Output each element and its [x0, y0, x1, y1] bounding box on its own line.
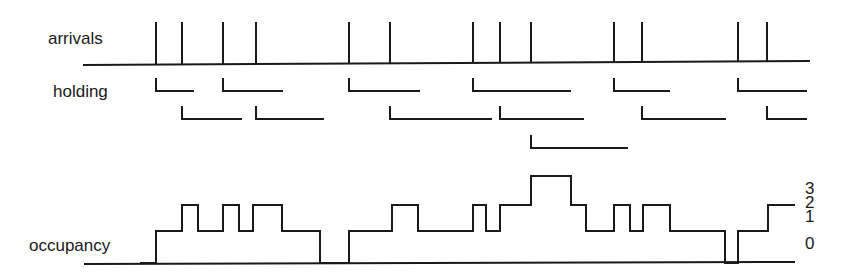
occupancy-plot: [84, 176, 795, 264]
holding-interval: [349, 78, 420, 91]
holding-interval: [642, 106, 726, 119]
occupancy-step-line: [140, 176, 795, 263]
occupancy-tick-0: 0: [805, 235, 814, 252]
holding-interval: [531, 135, 628, 148]
holding-interval: [256, 106, 324, 119]
holding-interval: [156, 78, 194, 91]
arrivals-timeline: [83, 22, 810, 65]
holding-interval: [614, 78, 670, 91]
holding-interval: [767, 106, 807, 119]
arrivals-label: arrivals: [48, 29, 103, 49]
arrivals-axis: [83, 61, 810, 65]
holding-interval: [182, 106, 242, 119]
holding-interval: [223, 78, 283, 91]
holding-interval: [500, 106, 584, 119]
holding-interval: [473, 78, 571, 91]
occupancy-axis: [84, 262, 795, 264]
queue-diagram: [0, 0, 842, 277]
occupancy-label: occupancy: [29, 236, 110, 256]
holding-interval: [738, 78, 807, 91]
holding-label: holding: [53, 82, 108, 102]
occupancy-tick-1: 1: [805, 208, 814, 225]
holding-interval: [390, 106, 492, 119]
holding-intervals: [156, 78, 807, 148]
